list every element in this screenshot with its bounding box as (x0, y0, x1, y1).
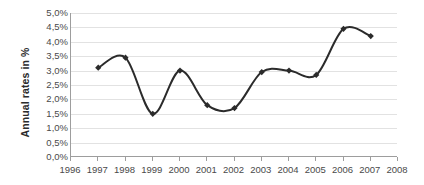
y-tick-label: 0,5% (36, 138, 68, 148)
x-tick-mark (370, 157, 371, 161)
data-point-marker (286, 68, 292, 74)
y-axis-tick-labels: 0,0%0,5%1,0%1,5%2,0%2,5%3,0%3,5%4,0%4,5%… (36, 13, 68, 157)
x-tick-label: 2004 (277, 164, 298, 176)
y-tick-label: 2,5% (36, 80, 68, 90)
y-tick-label: 2,0% (36, 95, 68, 105)
x-tick-label: 2002 (223, 164, 244, 176)
x-tick-mark (97, 157, 98, 161)
x-tick-label: 2001 (196, 164, 217, 176)
x-tick-mark (315, 157, 316, 161)
x-tick-mark (343, 157, 344, 161)
x-tick-label: 2003 (250, 164, 271, 176)
x-tick-label: 2008 (386, 164, 407, 176)
x-tick-mark (261, 157, 262, 161)
line-chart: Annual rates in % 0,0%0,5%1,0%1,5%2,0%2,… (0, 0, 424, 185)
y-tick-label: 3,5% (36, 51, 68, 61)
y-tick-label: 3,0% (36, 66, 68, 76)
x-tick-mark (234, 157, 235, 161)
x-tick-mark (125, 157, 126, 161)
y-tick-label: 1,0% (36, 123, 68, 133)
y-axis-title: Annual rates in % (14, 0, 36, 185)
x-tick-label: 2006 (332, 164, 353, 176)
x-tick-mark (70, 157, 71, 161)
x-axis-ticks (70, 157, 397, 163)
x-tick-label: 1999 (141, 164, 162, 176)
x-tick-mark (206, 157, 207, 161)
y-tick-label: 5,0% (36, 8, 68, 18)
plot-area (70, 13, 397, 157)
y-tick-label: 4,0% (36, 37, 68, 47)
x-tick-label: 2000 (168, 164, 189, 176)
x-tick-label: 2005 (305, 164, 326, 176)
x-tick-mark (288, 157, 289, 161)
series-line (98, 27, 371, 114)
x-tick-mark (397, 157, 398, 161)
y-tick-label: 4,5% (36, 23, 68, 33)
y-tick-label: 0,0% (36, 152, 68, 162)
x-axis-tick-labels: 1996199719981999200020012002200320042005… (70, 164, 397, 180)
series-plot (71, 13, 398, 157)
x-tick-label: 1998 (114, 164, 135, 176)
x-tick-mark (179, 157, 180, 161)
data-point-marker (368, 33, 374, 39)
x-tick-label: 1997 (87, 164, 108, 176)
y-tick-label: 1,5% (36, 109, 68, 119)
x-tick-label: 1996 (59, 164, 80, 176)
x-tick-mark (152, 157, 153, 161)
x-tick-label: 2007 (359, 164, 380, 176)
